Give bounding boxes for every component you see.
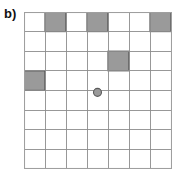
shaded-cell <box>108 51 129 71</box>
shaded-cell <box>24 71 45 91</box>
panel-label: b) <box>4 7 16 20</box>
shaded-cell <box>150 12 171 32</box>
shaded-cell <box>45 12 66 32</box>
lattice-grid <box>24 12 172 169</box>
figure-panel: b) <box>0 0 184 178</box>
shaded-cell <box>87 12 108 32</box>
lattice-grid-svg <box>24 12 172 169</box>
center-marker-icon <box>94 88 102 96</box>
